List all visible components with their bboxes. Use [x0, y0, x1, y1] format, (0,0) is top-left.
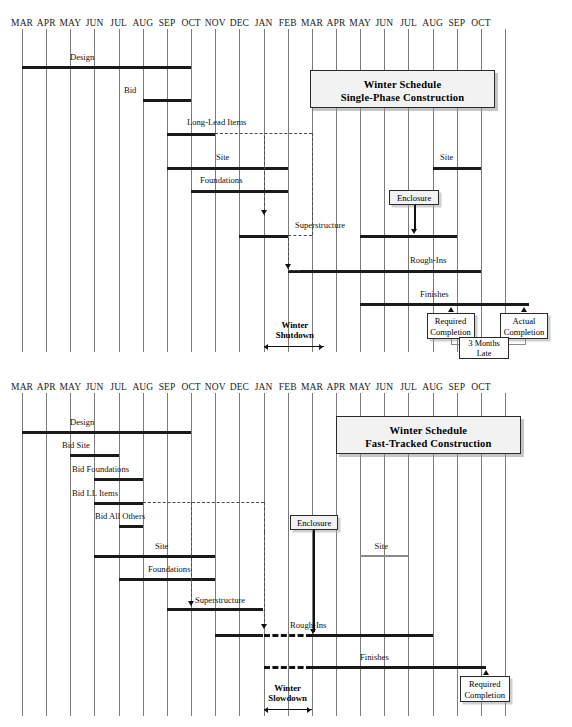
milestone-box: ActualCompletion: [500, 313, 548, 339]
grid-line: [215, 393, 216, 716]
milestone-line2: Completion: [461, 690, 509, 701]
gantt-bar-label: Long-Lead Items: [187, 117, 246, 127]
enclosure-box: Enclosure: [290, 515, 338, 530]
season-note-line1: Winter: [264, 683, 312, 693]
season-dim-arrow-right: [319, 344, 323, 350]
chart-title-box: Winter ScheduleFast-Tracked Construction: [336, 416, 521, 454]
dependency-arrow-site: [261, 210, 267, 215]
dependency-line-site: [264, 136, 265, 216]
gantt-bar: [239, 235, 287, 238]
gantt-bar-label: Superstructure: [295, 220, 345, 230]
month-label: JUL: [107, 18, 131, 28]
grid-line: [119, 29, 120, 352]
month-label: MAY: [348, 18, 372, 28]
milestone-line1: Required: [461, 679, 509, 690]
month-label: JUL: [396, 382, 420, 392]
grid-line: [46, 29, 47, 352]
month-label: MAR: [10, 18, 34, 28]
season-note-line2: Shutdown: [266, 330, 324, 340]
gantt-chart-single-phase: MARAPRMAYJUNJULAUGSEPOCTNOVDECJANFEBMARA…: [0, 0, 572, 365]
month-label: JAN: [252, 18, 276, 28]
grid-line: [239, 393, 240, 716]
chart-title-line1: Winter Schedule: [337, 425, 520, 438]
gantt-bar-label: Bid LL Items: [72, 488, 118, 498]
gantt-bar: [143, 99, 191, 102]
month-label: JUN: [82, 18, 106, 28]
gantt-bar: [119, 525, 143, 528]
gantt-chart-fast-tracked: MARAPRMAYJUNJULAUGSEPOCTNOVDECJANFEBMARA…: [0, 368, 572, 727]
dependency-arrow-super: [285, 264, 291, 269]
enclosure-arrow: [411, 229, 417, 234]
grid-line: [288, 29, 289, 352]
month-label: APR: [34, 18, 58, 28]
gantt-bar-label: Bid Foundations: [72, 464, 129, 474]
month-label: JUN: [82, 382, 106, 392]
grid-line: [70, 29, 71, 352]
season-dimension-line: [264, 346, 324, 347]
month-label: APR: [324, 382, 348, 392]
gantt-bar: [360, 235, 457, 238]
grid-line: [22, 29, 23, 352]
milestone-line2: Completion: [428, 327, 474, 338]
gantt-bar-label: Rough-Ins: [290, 620, 326, 630]
dependency-line-longlead-join: [288, 235, 312, 236]
gantt-bar-label: Design: [70, 52, 94, 62]
season-dim-arrow-left: [264, 344, 268, 350]
chart-title-line2: Single-Phase Construction: [311, 92, 494, 105]
season-note-line2: Slowdown: [264, 693, 312, 703]
month-label: FEB: [276, 18, 300, 28]
month-label: MAR: [300, 18, 324, 28]
month-label: FEB: [276, 382, 300, 392]
month-label: DEC: [227, 382, 251, 392]
month-label: MAR: [10, 382, 34, 392]
season-dim-arrow-left: [264, 707, 268, 713]
gantt-bar-winter-segment: [264, 634, 312, 637]
gantt-bar: [167, 133, 215, 136]
milestone-box: RequiredCompletion: [427, 313, 475, 339]
dependency-line-longlead-vert: [312, 133, 313, 235]
gantt-bar-label: Site: [155, 541, 168, 551]
dependency-line-site: [191, 502, 192, 607]
month-label: JAN: [252, 382, 276, 392]
gantt-bar-label: Site: [375, 541, 388, 551]
gantt-bar-label: Finishes: [420, 289, 449, 299]
month-label: JUL: [396, 18, 420, 28]
gantt-bar-label: Rough-Ins: [410, 255, 446, 265]
season-note-line1: Winter: [266, 320, 324, 330]
grid-line: [46, 393, 47, 716]
gantt-bar: [22, 431, 191, 434]
milestone-line1: Required: [428, 316, 474, 327]
delay-note-box: 3 MonthsLate: [459, 337, 509, 359]
gantt-bar: [360, 303, 529, 306]
month-label: APR: [324, 18, 348, 28]
month-label: MAY: [58, 382, 82, 392]
gantt-bar: [312, 666, 486, 669]
season-dim-arrow-right: [307, 707, 311, 713]
dependency-arrow-foundations: [261, 624, 267, 629]
month-label: AUG: [131, 382, 155, 392]
grid-line: [143, 29, 144, 352]
month-label: NOV: [203, 382, 227, 392]
month-label: DEC: [227, 18, 251, 28]
month-label: AUG: [421, 18, 445, 28]
month-label: OCT: [179, 382, 203, 392]
enclosure-connector: [414, 205, 416, 231]
chart-title-box: Winter ScheduleSingle-Phase Construction: [310, 70, 495, 108]
milestone-line2: Completion: [501, 327, 547, 338]
gantt-bar-label: Site: [216, 152, 229, 162]
gantt-bar: [167, 608, 264, 611]
gantt-bar-site-secondary: [360, 555, 408, 557]
gantt-bar: [191, 190, 288, 193]
month-label: JUN: [372, 382, 396, 392]
milestone-arrow: [521, 307, 527, 312]
month-label: MAY: [348, 382, 372, 392]
month-label: MAY: [58, 18, 82, 28]
dependency-line-bidll: [143, 502, 264, 503]
chart-title-line1: Winter Schedule: [311, 79, 494, 92]
dependency-line-bidll-vert: [264, 502, 265, 532]
enclosure-box: Enclosure: [389, 190, 439, 205]
season-note-winter-shutdown: WinterShutdown: [266, 320, 324, 340]
gantt-bar: [94, 555, 215, 558]
chart-title-line2: Fast-Tracked Construction: [337, 438, 520, 451]
season-note-winter-slowdown: WinterSlowdown: [264, 683, 312, 703]
